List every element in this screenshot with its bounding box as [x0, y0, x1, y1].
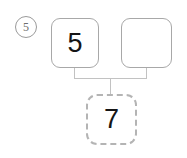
problem-number-badge: 5: [15, 16, 37, 38]
number-bond-problem: 5 5 7: [0, 0, 187, 158]
part-box-right[interactable]: [121, 18, 172, 68]
part-box-left[interactable]: 5: [51, 18, 99, 68]
whole-box[interactable]: 7: [86, 94, 137, 145]
connector-stem: [110, 78, 111, 95]
